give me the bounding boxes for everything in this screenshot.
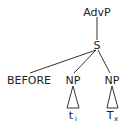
node-np-right: NP xyxy=(105,74,120,87)
leaf-right-subscript: x xyxy=(114,115,118,123)
edge-s-np-right xyxy=(98,50,110,73)
node-before: BEFORE xyxy=(7,74,51,87)
node-np-left: NP xyxy=(66,74,81,87)
leaf-left-subscript: i xyxy=(75,115,77,123)
node-s: S xyxy=(94,39,101,52)
edge-s-before xyxy=(30,50,96,73)
leaf-left-base: t xyxy=(69,109,74,122)
syntax-tree: AdvP S BEFORE NP NP t i T x xyxy=(0,0,126,125)
leaf-right-base: T xyxy=(106,109,114,122)
triangle-np-left xyxy=(67,86,79,108)
node-advp: AdvP xyxy=(83,6,111,19)
triangle-np-right xyxy=(107,86,118,108)
